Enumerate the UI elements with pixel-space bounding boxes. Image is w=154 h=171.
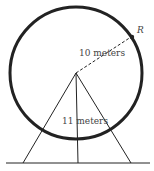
radius-label: 10 meters [79, 48, 125, 58]
height-label: 11 meters [62, 116, 108, 126]
ferris-wheel-diagram: R 10 meters 11 meters [0, 0, 154, 171]
point-r-label: R [137, 25, 144, 35]
diagram-canvas [0, 0, 154, 171]
point-r [130, 35, 134, 39]
